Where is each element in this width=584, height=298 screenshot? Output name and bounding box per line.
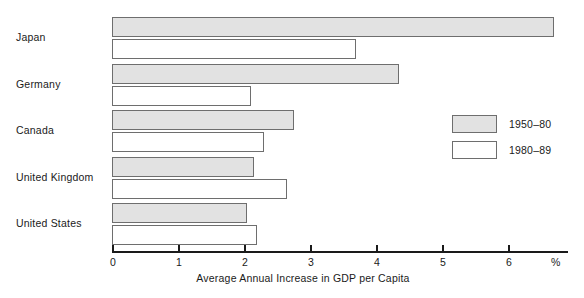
x-tick-label-6: 6 bbox=[506, 256, 512, 268]
x-tick-mark-5 bbox=[442, 245, 444, 252]
x-tick-label-5: 5 bbox=[440, 256, 446, 268]
bar-germany-1950-80 bbox=[112, 64, 399, 84]
legend-item-1950-80: 1950–80 bbox=[452, 113, 551, 134]
legend-label-1950-80: 1950–80 bbox=[509, 118, 551, 130]
category-label-united-states: United States bbox=[16, 217, 108, 229]
x-tick-label-3: 3 bbox=[308, 256, 314, 268]
x-tick-label-2: 2 bbox=[242, 256, 248, 268]
x-tick-mark-4 bbox=[376, 245, 378, 252]
bar-united-states-1980-89 bbox=[112, 225, 257, 245]
x-tick-mark-3 bbox=[310, 245, 312, 252]
x-axis-title: Average Annual Increase in GDP per Capit… bbox=[0, 272, 584, 284]
legend-swatch-icon-1980-89 bbox=[452, 141, 497, 159]
bar-united-kingdom-1950-80 bbox=[112, 157, 254, 177]
x-axis-unit-label: % bbox=[551, 256, 560, 268]
x-tick-mark-0 bbox=[112, 245, 114, 252]
x-tick-mark-1 bbox=[178, 245, 180, 252]
bar-canada-1950-80 bbox=[112, 110, 294, 130]
bar-united-kingdom-1980-89 bbox=[112, 179, 287, 199]
legend-swatch-icon-1950-80 bbox=[452, 115, 497, 133]
bar-japan-1950-80 bbox=[112, 17, 554, 37]
bar-japan-1980-89 bbox=[112, 39, 356, 59]
bar-germany-1980-89 bbox=[112, 86, 251, 106]
legend-label-1980-89: 1980–89 bbox=[509, 144, 551, 156]
bar-united-states-1950-80 bbox=[112, 203, 247, 223]
legend-item-1980-89: 1980–89 bbox=[452, 139, 551, 160]
x-tick-label-1: 1 bbox=[176, 256, 182, 268]
gdp-bar-chart: Japan Germany Canada United Kingdom Unit… bbox=[0, 0, 584, 298]
category-label-united-kingdom: United Kingdom bbox=[16, 171, 108, 183]
category-label-germany: Germany bbox=[16, 78, 108, 90]
x-tick-mark-2 bbox=[244, 245, 246, 252]
category-label-japan: Japan bbox=[16, 31, 108, 43]
legend: 1950–80 1980–89 bbox=[452, 113, 551, 165]
x-tick-label-0: 0 bbox=[110, 256, 116, 268]
x-axis-line bbox=[112, 251, 568, 253]
x-tick-label-4: 4 bbox=[374, 256, 380, 268]
bar-canada-1980-89 bbox=[112, 132, 264, 152]
category-label-canada: Canada bbox=[16, 124, 108, 136]
x-tick-mark-6 bbox=[508, 245, 510, 252]
